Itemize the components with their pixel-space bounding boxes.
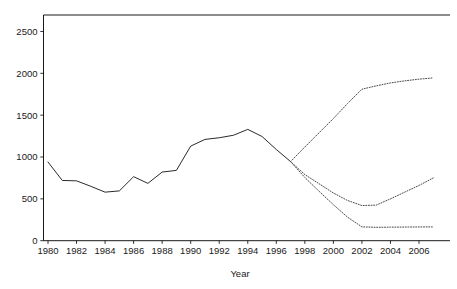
axes-group bbox=[44, 15, 451, 241]
chart-container: 0500100015002000250019801982198419861988… bbox=[0, 0, 457, 289]
line-chart: 0500100015002000250019801982198419861988… bbox=[0, 0, 457, 289]
y-tick-label: 1000 bbox=[16, 151, 37, 162]
x-tick-label: 1994 bbox=[237, 245, 258, 256]
x-tick-label: 1992 bbox=[209, 245, 230, 256]
x-tick-label: 1990 bbox=[180, 245, 201, 256]
series-line-forecast-middle bbox=[291, 162, 434, 206]
y-tick-label: 1500 bbox=[16, 110, 37, 121]
series-line-forecast-high bbox=[291, 78, 434, 162]
x-tick-label: 1996 bbox=[266, 245, 287, 256]
tick-marks-group bbox=[40, 31, 419, 243]
x-tick-label: 1986 bbox=[123, 245, 144, 256]
y-tick-label: 500 bbox=[22, 193, 38, 204]
x-tick-label: 1998 bbox=[294, 245, 315, 256]
data-series-group bbox=[48, 78, 433, 227]
x-tick-label: 2002 bbox=[351, 245, 372, 256]
y-tick-label: 2500 bbox=[16, 26, 37, 37]
series-line-forecast-low bbox=[291, 162, 434, 228]
x-tick-label: 1988 bbox=[152, 245, 173, 256]
y-tick-label: 2000 bbox=[16, 68, 37, 79]
series-line-historical bbox=[48, 129, 291, 192]
x-tick-label: 1982 bbox=[66, 245, 87, 256]
tick-labels-group: 0500100015002000250019801982198419861988… bbox=[16, 26, 429, 256]
x-tick-label: 2004 bbox=[380, 245, 401, 256]
x-tick-label: 1980 bbox=[37, 245, 58, 256]
x-tick-label: 2006 bbox=[408, 245, 429, 256]
x-tick-label: 1984 bbox=[95, 245, 116, 256]
x-axis-title: Year bbox=[230, 268, 249, 279]
x-tick-label: 2000 bbox=[323, 245, 344, 256]
